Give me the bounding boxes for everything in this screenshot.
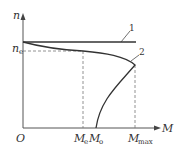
speed-torque-diagram: n M O n e M e M o M max 1 2	[0, 0, 183, 152]
me-tick-sub: e	[84, 138, 88, 146]
mo-tick-sub: o	[99, 138, 103, 146]
curve-2	[23, 42, 135, 128]
mmax-tick-sub: max	[138, 138, 153, 146]
y-axis-label: n	[13, 9, 20, 22]
origin-label: O	[16, 132, 25, 145]
y-axis-arrow-icon	[21, 13, 26, 20]
x-axis-arrow-icon	[154, 126, 161, 131]
x-axis-label: M	[161, 122, 174, 135]
curve-2-label: 2	[139, 47, 145, 57]
ne-tick-sub: e	[19, 48, 23, 56]
curve-1-label: 1	[129, 23, 135, 33]
curve-2-leader	[131, 55, 139, 61]
